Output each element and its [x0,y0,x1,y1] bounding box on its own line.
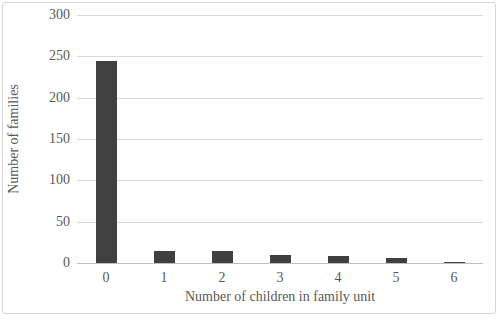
y-axis-title: Number of families [6,39,22,239]
chart-frame [2,2,496,314]
bar-chart: 0501001502002503000123456 Number of fami… [0,0,503,325]
x-axis-title: Number of children in family unit [130,289,430,305]
